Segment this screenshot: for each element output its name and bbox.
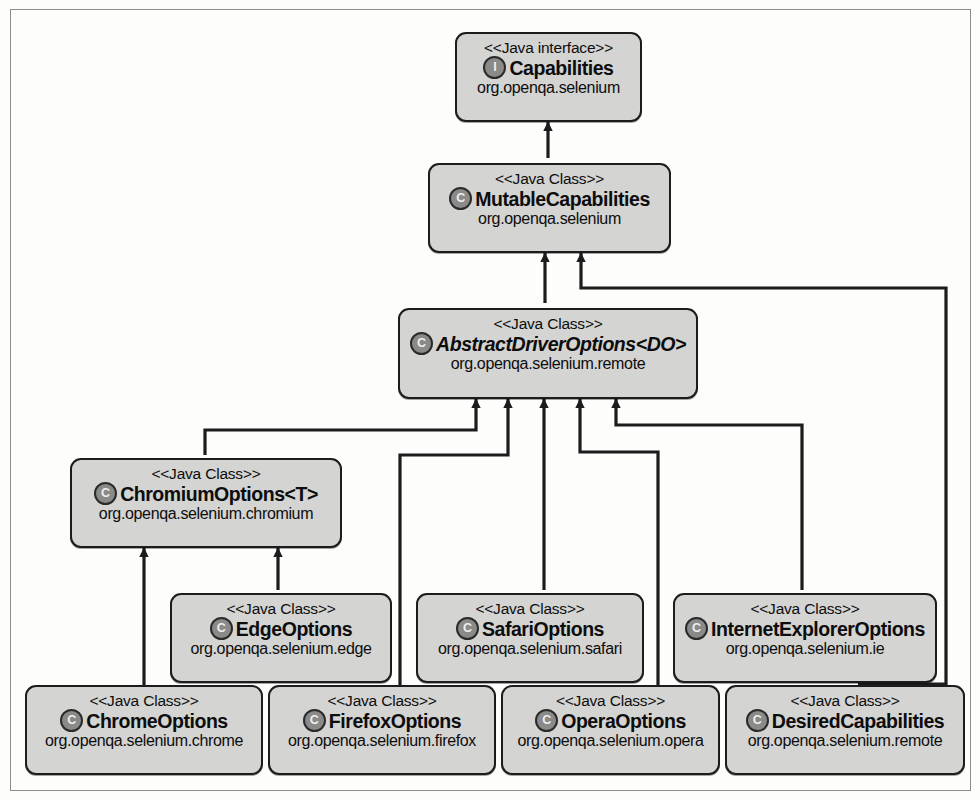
- package-label: org.openqa.selenium.firefox: [277, 731, 487, 750]
- class-badge-icon: C: [535, 709, 558, 732]
- class-name-row: C InternetExplorerOptions: [682, 617, 928, 640]
- package-label: org.openqa.selenium.chromium: [79, 504, 333, 523]
- stereotype-label: <<Java Class>>: [437, 170, 662, 187]
- package-label: org.openqa.selenium.remote: [734, 731, 956, 750]
- class-name-row: I Capabilities: [464, 56, 633, 79]
- stereotype-label: <<Java Class>>: [407, 315, 689, 332]
- node-mutablecapabilities[interactable]: <<Java Class>> C MutableCapabilities org…: [428, 163, 671, 253]
- node-firefoxoptions[interactable]: <<Java Class>> C FirefoxOptions org.open…: [268, 685, 496, 775]
- node-desiredcapabilities[interactable]: <<Java Class>> C DesiredCapabilities org…: [725, 685, 965, 775]
- package-label: org.openqa.selenium.opera: [510, 731, 711, 750]
- stereotype-label: <<Java Class>>: [179, 600, 383, 617]
- class-name-row: C DesiredCapabilities: [734, 709, 956, 732]
- stereotype-label: <<Java Class>>: [682, 600, 928, 617]
- class-name-row: C FirefoxOptions: [277, 709, 487, 732]
- class-name-label: DesiredCapabilities: [772, 710, 944, 732]
- stereotype-label: <<Java Class>>: [277, 692, 487, 709]
- class-name-row: C MutableCapabilities: [437, 187, 662, 210]
- package-label: org.openqa.selenium.chrome: [34, 731, 254, 750]
- class-name-label: ChromeOptions: [86, 710, 228, 732]
- class-badge-icon: C: [303, 709, 326, 732]
- stereotype-label: <<Java Class>>: [79, 465, 333, 482]
- package-label: org.openqa.selenium.ie: [682, 639, 928, 658]
- class-name-label: OperaOptions: [561, 710, 686, 732]
- class-badge-icon: C: [449, 187, 472, 210]
- class-badge-icon: C: [60, 709, 83, 732]
- package-label: org.openqa.selenium.edge: [179, 639, 383, 658]
- class-name-row: C AbstractDriverOptions<DO>: [407, 332, 689, 355]
- edge-internetexploreroptions-to-abstractdriveroptions: [616, 399, 802, 590]
- class-name-row: C OperaOptions: [510, 709, 711, 732]
- node-edgeoptions[interactable]: <<Java Class>> C EdgeOptions org.openqa.…: [170, 593, 392, 683]
- node-abstractdriveroptions[interactable]: <<Java Class>> C AbstractDriverOptions<D…: [398, 308, 698, 399]
- class-badge-icon: C: [210, 617, 233, 640]
- class-name-label: AbstractDriverOptions<DO>: [436, 333, 686, 355]
- interface-badge-icon: I: [483, 56, 506, 79]
- stereotype-label: <<Java Class>>: [34, 692, 254, 709]
- class-name-label: ChromiumOptions<T>: [120, 483, 318, 505]
- class-badge-icon: C: [94, 482, 117, 505]
- node-operaoptions[interactable]: <<Java Class>> C OperaOptions org.openqa…: [501, 685, 720, 775]
- stereotype-label: <<Java Class>>: [425, 600, 635, 617]
- class-name-row: C EdgeOptions: [179, 617, 383, 640]
- package-label: org.openqa.selenium: [437, 209, 662, 228]
- class-badge-icon: C: [410, 332, 433, 355]
- edge-chromiumoptions-to-abstractdriveroptions: [205, 399, 476, 455]
- stereotype-label: <<Java Class>>: [734, 692, 956, 709]
- node-internetexploreroptions[interactable]: <<Java Class>> C InternetExplorerOptions…: [673, 593, 937, 683]
- class-name-label: Capabilities: [509, 57, 613, 79]
- package-label: org.openqa.selenium: [464, 78, 633, 97]
- stereotype-label: <<Java Class>>: [510, 692, 711, 709]
- class-name-label: MutableCapabilities: [475, 188, 650, 210]
- class-badge-icon: C: [456, 617, 479, 640]
- node-chromeoptions[interactable]: <<Java Class>> C ChromeOptions org.openq…: [25, 685, 263, 775]
- uml-class-diagram: <<Java interface>> I Capabilities org.op…: [0, 0, 980, 799]
- class-name-row: C SafariOptions: [425, 617, 635, 640]
- node-capabilities[interactable]: <<Java interface>> I Capabilities org.op…: [455, 32, 642, 122]
- node-safarioptions[interactable]: <<Java Class>> C SafariOptions org.openq…: [416, 593, 644, 683]
- class-name-label: FirefoxOptions: [329, 710, 461, 732]
- class-name-label: EdgeOptions: [236, 618, 352, 640]
- package-label: org.openqa.selenium.remote: [407, 354, 689, 373]
- class-name-label: InternetExplorerOptions: [711, 618, 925, 640]
- class-name-row: C ChromeOptions: [34, 709, 254, 732]
- class-name-row: C ChromiumOptions<T>: [79, 482, 333, 505]
- node-chromiumoptions[interactable]: <<Java Class>> C ChromiumOptions<T> org.…: [70, 458, 342, 548]
- stereotype-label: <<Java interface>>: [464, 39, 633, 56]
- class-badge-icon: C: [746, 709, 769, 732]
- package-label: org.openqa.selenium.safari: [425, 639, 635, 658]
- class-name-label: SafariOptions: [482, 618, 604, 640]
- class-badge-icon: C: [685, 617, 708, 640]
